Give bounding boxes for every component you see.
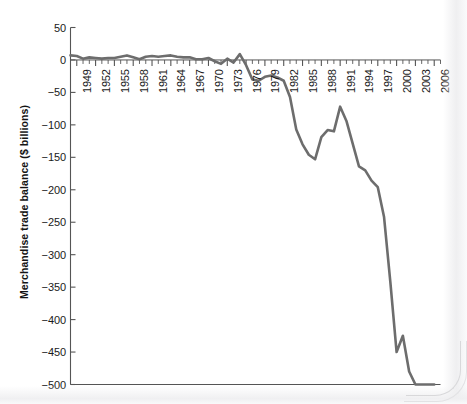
chart-figure: Merchandise trade balance ($ billions) 5… [0,0,467,404]
y-axis-tick-labels: 500−50−100−150−200−250−300−350−400−450−5… [20,0,66,404]
y-axis-tick-label: −450 [20,346,66,358]
y-axis-tick-label: 0 [20,54,66,66]
x-axis-minor-ticks [77,60,441,66]
y-axis-tick-label: −200 [20,184,66,196]
y-axis-tick-label: −350 [20,281,66,293]
y-axis-tick-label: −100 [20,119,66,131]
scanned-page: Merchandise trade balance ($ billions) 5… [0,0,467,404]
y-axis-tick-label: −150 [20,151,66,163]
y-axis-tick-label: −250 [20,216,66,228]
y-axis-tick-label: −50 [20,86,66,98]
y-axis-tick-label: −500 [20,379,66,391]
y-axis-tick-label: −300 [20,249,66,261]
y-axis-major-ticks [71,28,76,385]
y-axis-tick-label: −400 [20,314,66,326]
trade-balance-line [71,54,435,384]
y-axis-tick-label: 50 [20,22,66,34]
line-chart-plot [0,0,467,404]
